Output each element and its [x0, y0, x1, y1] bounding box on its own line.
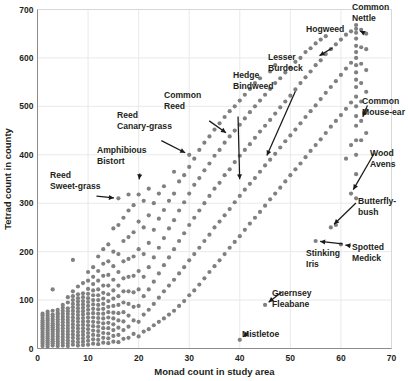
data-point [197, 208, 201, 212]
data-point [111, 264, 115, 268]
data-point [131, 203, 135, 207]
data-point [329, 85, 333, 89]
data-point [192, 183, 196, 187]
data-point [354, 23, 358, 27]
data-point [324, 91, 328, 95]
data-point [349, 61, 353, 65]
data-point [96, 342, 100, 346]
data-point [283, 179, 287, 183]
data-point [96, 325, 100, 329]
data-point [157, 217, 161, 221]
data-point [278, 145, 282, 149]
data-point [354, 70, 358, 74]
data-point [319, 37, 323, 41]
data-point [243, 93, 247, 97]
annotation-label: ReedSweet-grass [50, 170, 101, 191]
data-point [329, 125, 333, 129]
data-point [162, 184, 166, 188]
data-point [354, 104, 358, 108]
annotation-label: GuernseyFleabane [272, 288, 312, 309]
data-point [172, 218, 176, 222]
data-point [187, 165, 191, 169]
data-point [71, 298, 75, 302]
data-point [101, 274, 105, 278]
data-point [76, 292, 80, 296]
data-point [314, 239, 318, 243]
data-point [273, 81, 277, 85]
annotation-arrowhead [237, 174, 242, 179]
data-point [344, 33, 348, 37]
data-point [121, 300, 125, 304]
data-point [147, 327, 151, 331]
data-point [137, 247, 141, 251]
data-point [324, 131, 328, 135]
data-point [106, 336, 110, 340]
data-point [288, 173, 292, 177]
data-point [152, 302, 156, 306]
data-point [137, 320, 141, 324]
x-tick-label: 0 [35, 353, 40, 363]
data-point [116, 318, 120, 322]
data-point [359, 62, 363, 66]
annotation-label: CommonReed [164, 90, 201, 111]
data-point [116, 333, 120, 337]
data-point [131, 290, 135, 294]
data-point [288, 133, 292, 137]
data-point [91, 293, 95, 297]
data-point [263, 204, 267, 208]
data-point [263, 93, 267, 97]
x-tick-label: 70 [387, 353, 397, 363]
x-tick-label: 50 [286, 353, 296, 363]
data-point [212, 128, 216, 132]
data-point [293, 87, 297, 91]
data-point [56, 308, 60, 312]
annotation: StinkingIris [306, 240, 343, 269]
x-tick-label: 10 [83, 353, 93, 363]
data-point [359, 119, 363, 123]
data-point [96, 279, 100, 283]
x-tick-label: 20 [134, 353, 144, 363]
data-point [334, 79, 338, 83]
data-point [71, 258, 75, 262]
data-point [223, 213, 227, 217]
data-point [126, 289, 130, 293]
data-point [238, 194, 242, 198]
data-point [86, 319, 90, 323]
data-point [86, 279, 90, 283]
data-point [319, 137, 323, 141]
annotation: ReedSweet-grass [50, 170, 114, 200]
data-point [91, 311, 95, 315]
data-point [334, 119, 338, 123]
data-point [162, 236, 166, 240]
data-point [76, 284, 80, 288]
data-point [303, 115, 307, 119]
data-point [111, 316, 115, 320]
data-point [354, 56, 358, 60]
annotation: GuernseyFleabane [269, 288, 312, 309]
data-point [121, 310, 125, 314]
data-point [91, 282, 95, 286]
data-point [177, 208, 181, 212]
data-point [202, 201, 206, 205]
data-point [217, 181, 221, 185]
data-point [121, 319, 125, 323]
data-point [137, 287, 141, 291]
data-point [162, 208, 166, 212]
data-point [116, 294, 120, 298]
data-point [131, 254, 135, 258]
data-point [96, 333, 100, 337]
data-point [116, 252, 120, 256]
data-point [126, 208, 130, 212]
data-point [197, 176, 201, 180]
y-tick-label: 300 [19, 198, 33, 208]
data-point [106, 259, 110, 263]
data-point [126, 257, 130, 261]
data-point [207, 270, 211, 274]
data-point [364, 131, 368, 135]
y-tick-label: 500 [19, 101, 33, 111]
data-point [339, 73, 343, 77]
data-point [167, 255, 171, 259]
data-point [233, 200, 237, 204]
data-point [162, 289, 166, 293]
data-point [96, 254, 100, 258]
